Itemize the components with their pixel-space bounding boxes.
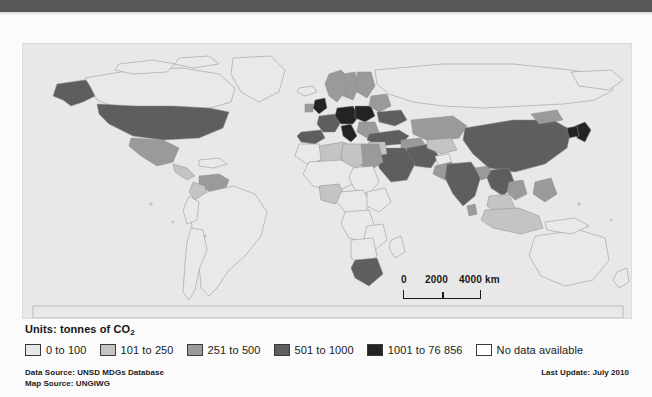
- top-header-band: [0, 0, 652, 12]
- data-source-text: Data Source: UNSD MDGs Database: [25, 367, 164, 378]
- world-map-svg: .c{stroke:#8d8d8d;stroke-width:0.5;} .v0…: [23, 44, 631, 318]
- region-korea: [567, 126, 579, 138]
- map-scalebar: 0 2000 4000 km: [401, 274, 511, 308]
- legend-item-3[interactable]: 501 to 1000: [274, 344, 354, 356]
- map-source-text: Map Source: UNGIWG: [25, 378, 164, 389]
- last-update-text: Last Update: July 2010: [541, 367, 629, 378]
- island-dot: [610, 219, 612, 221]
- legend-item-4[interactable]: 1001 to 76 856: [367, 344, 463, 356]
- scalebar-midtick: [442, 292, 444, 298]
- legend-item-label: 501 to 1000: [295, 344, 354, 356]
- footer-sources: Data Source: UNSD MDGs Database Map Sour…: [25, 367, 164, 389]
- map-footer: Data Source: UNSD MDGs Database Map Sour…: [25, 367, 629, 395]
- legend-item-1[interactable]: 101 to 250: [100, 344, 174, 356]
- legend-swatch-icon: [187, 344, 203, 356]
- region-antarctica: [33, 306, 623, 318]
- legend-title-subscript: 2: [130, 328, 135, 337]
- map-page: .c{stroke:#8d8d8d;stroke-width:0.5;} .v0…: [0, 0, 652, 397]
- scalebar-tick-0: 0: [401, 274, 407, 285]
- legend-items-row: 0 to 100 101 to 250 251 to 500 501 to 10…: [25, 342, 629, 358]
- legend-swatch-icon: [476, 344, 492, 356]
- legend-swatch-icon: [100, 344, 116, 356]
- legend-swatch-icon: [25, 344, 41, 356]
- scalebar-graphic: [403, 290, 481, 299]
- island-dot: [172, 221, 174, 223]
- legend-item-label: No data available: [497, 344, 584, 356]
- page-sheet: .c{stroke:#8d8d8d;stroke-width:0.5;} .v0…: [0, 15, 652, 397]
- legend-title-text: Units: tonnes of CO: [25, 323, 130, 335]
- legend-item-2[interactable]: 251 to 500: [187, 344, 261, 356]
- island-dot: [204, 235, 206, 237]
- island-dot: [150, 203, 152, 205]
- region-ireland: [305, 104, 313, 112]
- legend-item-label: 0 to 100: [46, 344, 87, 356]
- legend-item-5[interactable]: No data available: [476, 344, 584, 356]
- legend-swatch-icon: [367, 344, 383, 356]
- legend-item-label: 1001 to 76 856: [388, 344, 463, 356]
- legend-item-label: 251 to 500: [208, 344, 261, 356]
- map-legend: Units: tonnes of CO2 0 to 100 101 to 250…: [25, 323, 629, 358]
- legend-item-0[interactable]: 0 to 100: [25, 344, 87, 356]
- legend-item-label: 101 to 250: [121, 344, 174, 356]
- island-dot: [578, 203, 580, 205]
- scalebar-tick-2: 4000 km: [459, 274, 500, 285]
- region-sri-lanka: [467, 204, 477, 216]
- legend-swatch-icon: [274, 344, 290, 356]
- footer-last-update: Last Update: July 2010: [541, 367, 629, 378]
- scalebar-labels: 0 2000 4000 km: [401, 274, 511, 288]
- legend-title: Units: tonnes of CO2: [25, 323, 629, 337]
- scalebar-tick-1: 2000: [425, 274, 448, 285]
- world-map-panel[interactable]: .c{stroke:#8d8d8d;stroke-width:0.5;} .v0…: [22, 43, 632, 319]
